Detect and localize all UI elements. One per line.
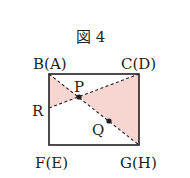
point-q-dot <box>106 118 111 123</box>
label-top-right: C(D) <box>121 55 156 73</box>
label-bottom-left: F(E) <box>35 154 68 172</box>
label-top-left: B(A) <box>33 55 67 73</box>
figure-4-diagram: 図 4 B(A) C(D) F(E) G(H) R P Q <box>0 0 190 178</box>
figure-title: 図 4 <box>76 28 105 46</box>
label-r: R <box>32 102 44 120</box>
label-q: Q <box>92 121 104 139</box>
shaded-triangle-pcg <box>79 74 139 145</box>
label-p: P <box>74 78 84 96</box>
label-bottom-right: G(H) <box>120 154 157 172</box>
